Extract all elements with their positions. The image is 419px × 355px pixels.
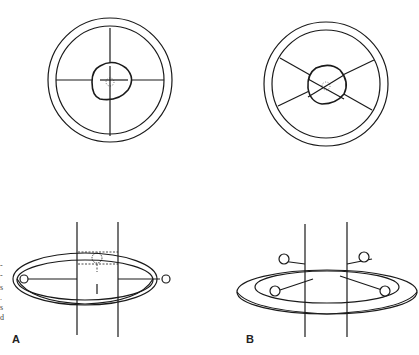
panel-label-a: A [12,333,20,345]
side-view-b [237,222,417,337]
margin-fragment: - [0,272,3,280]
margin-fragment: d [0,314,4,322]
top-view-a [48,18,172,142]
margin-fragment: s [0,304,3,312]
top-view-b [264,22,388,146]
margin-fragment: - [0,262,3,270]
side-view-a [13,222,170,337]
figure-drawing [0,0,419,355]
margin-fragment: s [0,284,3,292]
margin-fragment: . [0,294,2,302]
panel-label-b: B [246,333,254,345]
